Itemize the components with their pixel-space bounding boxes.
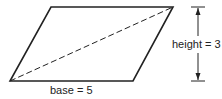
arrowhead-down-icon xyxy=(196,73,201,80)
diagonal-dashed xyxy=(10,7,173,81)
base-label: base = 5 xyxy=(50,84,93,96)
arrowhead-up-icon xyxy=(196,8,201,15)
height-label: height = 3 xyxy=(172,38,221,50)
parallelogram-diagram: height = 3 base = 5 xyxy=(0,0,222,99)
